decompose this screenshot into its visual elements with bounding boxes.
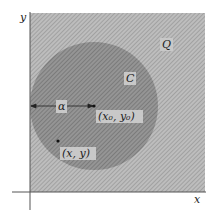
y-axis-label: y — [20, 12, 26, 23]
x-axis-label: x — [194, 194, 200, 205]
radius-label: α — [56, 100, 67, 113]
sample-point — [56, 139, 59, 142]
center-label: (x₀, y₀) — [96, 110, 143, 123]
point-label: (x, y) — [60, 147, 96, 160]
region-q-label: Q — [160, 38, 173, 51]
center-point — [92, 104, 95, 107]
circle-c-label: C — [124, 72, 136, 85]
